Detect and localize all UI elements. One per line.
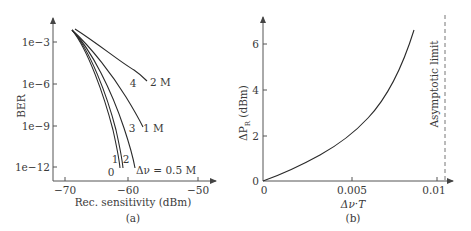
ytick-label: 1e−3 — [22, 36, 50, 48]
curve-label: 0 — [108, 166, 115, 178]
curve-4 — [75, 29, 147, 81]
x-axis-title: Rec. sensitivity (dBm) — [75, 196, 192, 208]
asymptotic-limit-label: Asymptotic limit — [428, 40, 440, 129]
y-axis-title: ΔPR (dBm) — [237, 85, 252, 141]
curve-1 — [72, 30, 123, 168]
figure: 1e−3 1e−6 1e−9 1e−12 −70 −60 −50 Rec. se… — [0, 0, 471, 231]
ytick-label: 1e−9 — [22, 120, 50, 132]
ytick-label: 4 — [252, 84, 259, 96]
ytick-label: 0 — [252, 175, 259, 187]
curve-label: 2 — [123, 153, 130, 165]
xtick-label: 0.005 — [337, 184, 367, 196]
y-axis-title: BER — [15, 93, 27, 117]
curve-value-label: 2 M — [150, 76, 171, 88]
x-axis-title: Δν·T — [340, 198, 366, 210]
penalty-curve — [263, 30, 414, 181]
curve-value-label: Δν = 0.5 M — [136, 164, 196, 176]
curve-label: 3 — [129, 122, 136, 134]
xtick-label: −60 — [117, 184, 139, 196]
ytick-label: 6 — [252, 38, 259, 50]
ytick-label: 1e−12 — [15, 161, 50, 173]
panel-caption: (a) — [126, 212, 140, 224]
panel-b-power-penalty-chart: 6 4 2 0 0 0.005 0.01 Δν·T (b) ΔPR (dBm) … — [237, 15, 453, 224]
curve-value-label: 1 M — [143, 122, 164, 134]
curve-label: 1 — [112, 153, 119, 165]
xtick-label: 0 — [261, 184, 268, 196]
ytick-label: 1e−6 — [22, 78, 51, 90]
xtick-label: −50 — [187, 184, 209, 196]
panel-caption: (b) — [346, 212, 361, 224]
xtick-label: 0.01 — [422, 184, 445, 196]
xtick-label: −70 — [54, 184, 76, 196]
curve-label: 4 — [130, 77, 137, 89]
panel-a-ber-chart: 1e−3 1e−6 1e−9 1e−12 −70 −60 −50 Rec. se… — [15, 18, 216, 224]
ytick-label: 2 — [252, 130, 259, 142]
